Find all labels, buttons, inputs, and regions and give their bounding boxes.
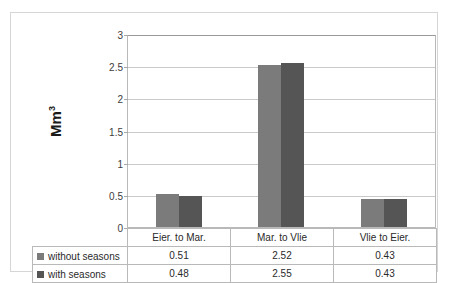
bar-group	[230, 36, 332, 227]
bar-with-seasons	[281, 63, 304, 227]
legend-label: with seasons	[48, 268, 106, 279]
data-cell: 0.43	[334, 247, 437, 265]
bar-without-seasons	[361, 199, 384, 227]
y-axis-title-text: Mm	[46, 111, 63, 137]
data-table: Eier. to Mar.Mar. to VlieVlie to Eier.wi…	[32, 228, 437, 283]
y-tick-label: 0.5	[109, 190, 123, 201]
bar-without-seasons	[156, 194, 179, 227]
table-header-row: Eier. to Mar.Mar. to VlieVlie to Eier.	[33, 229, 437, 247]
y-tick-label: 1.5	[109, 126, 123, 137]
bar-group	[333, 36, 435, 227]
chart-frame: Mm3 32.521.510.50 Eier. to Mar.Mar. to V…	[10, 12, 438, 272]
legend-swatch-icon	[37, 271, 44, 278]
y-axis-title: Mm3	[25, 91, 85, 151]
legend-entry-with-seasons: with seasons	[33, 265, 128, 283]
legend-swatch-icon	[37, 253, 44, 260]
legend-label: without seasons	[48, 250, 120, 261]
category-header-cell: Vlie to Eier.	[334, 229, 437, 247]
data-cell: 0.51	[128, 247, 231, 265]
y-tick-label: 1	[117, 158, 123, 169]
bar-with-seasons	[384, 199, 407, 227]
bar-with-seasons	[179, 196, 202, 227]
data-cell: 2.52	[231, 247, 334, 265]
table-corner-cell	[33, 229, 128, 247]
table-row: without seasons0.512.520.43	[33, 247, 437, 265]
legend-entry-without-seasons: without seasons	[33, 247, 128, 265]
category-header-cell: Eier. to Mar.	[128, 229, 231, 247]
bar-series-container	[128, 36, 435, 227]
category-header-cell: Mar. to Vlie	[231, 229, 334, 247]
table-row: with seasons0.482.550.43	[33, 265, 437, 283]
y-tick-label: 3	[117, 30, 123, 41]
y-axis-tick-labels: 32.521.510.50	[83, 35, 123, 228]
plot-area	[127, 35, 436, 228]
bar-without-seasons	[258, 65, 281, 227]
y-tick-label: 2	[117, 94, 123, 105]
y-axis-title-superscript: 3	[46, 106, 56, 111]
data-cell: 0.43	[334, 265, 437, 283]
y-tick-label: 2.5	[109, 62, 123, 73]
data-cell: 0.48	[128, 265, 231, 283]
bar-group	[128, 36, 230, 227]
data-cell: 2.55	[231, 265, 334, 283]
